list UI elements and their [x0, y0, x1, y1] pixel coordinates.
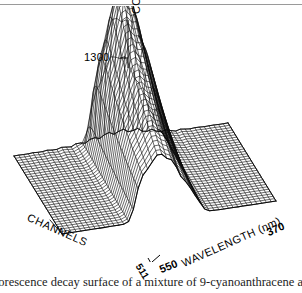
figure-caption: uorescence decay surface of a mixture of…: [0, 272, 302, 293]
wavelength-axis: [148, 255, 160, 262]
figure-root: COUNTS 1300 CHANNELS 511 550 WAVELENGTH …: [0, 0, 302, 293]
axis-label-counts: COUNTS: [131, 0, 142, 14]
surface-mesh: [14, 6, 276, 234]
wavelength-tick-550: [152, 255, 160, 262]
top-divider-rule: [0, 4, 302, 5]
channels-tick-511: [148, 258, 152, 262]
figure-caption-text: uorescence decay surface of a mixture of…: [0, 274, 302, 290]
axis-tick-1300: 1300: [84, 52, 109, 63]
